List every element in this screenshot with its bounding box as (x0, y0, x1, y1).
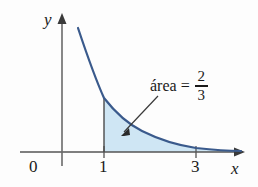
area-annotation-word: área (150, 78, 177, 94)
y-axis-arrowhead (58, 13, 67, 24)
origin-label: 0 (29, 158, 38, 175)
x-tick-label-1: 1 (99, 158, 108, 175)
shaded-area-region (104, 98, 240, 152)
equals-sign: = (181, 78, 190, 94)
fraction-numerator: 2 (195, 69, 207, 84)
area-annotation: área = 2 3 (150, 69, 208, 103)
fraction-denominator: 3 (195, 88, 207, 103)
y-axis-label: y (44, 11, 52, 28)
area-value-fraction: 2 3 (195, 69, 208, 103)
figure-container: y x 0 1 3 área = 2 3 (0, 0, 258, 187)
x-axis-label: x (231, 160, 239, 177)
x-tick-label-3: 3 (191, 158, 200, 175)
plot-svg (0, 0, 258, 187)
